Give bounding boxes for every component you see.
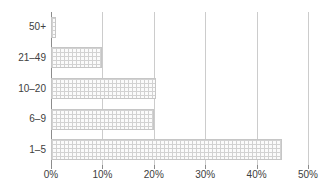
- x-tick-label-10: 10%: [92, 170, 112, 180]
- bar-row: [51, 73, 156, 104]
- y-tick-label-1-5: 1–5: [0, 145, 46, 155]
- y-tick-label-10-20: 10–20: [0, 84, 46, 94]
- bar-row: [51, 104, 154, 135]
- bar-10-20: [51, 78, 156, 99]
- y-axis-labels: 50+ 21–49 10–20 6–9 1–5: [0, 12, 46, 165]
- x-tick-label-40: 40%: [247, 170, 267, 180]
- y-tick-label-50-plus: 50+: [0, 22, 46, 32]
- gridline-50: [308, 12, 309, 165]
- bar-50-plus: [51, 17, 56, 38]
- y-tick-label-21-49: 21–49: [0, 53, 46, 63]
- x-tick-label-0: 0%: [44, 170, 58, 180]
- x-tick-label-30: 30%: [195, 170, 215, 180]
- x-tick-label-20: 20%: [144, 170, 164, 180]
- bar-row: [51, 43, 102, 74]
- y-tick-label-6-9: 6–9: [0, 114, 46, 124]
- x-axis-labels: 0% 10% 20% 30% 40% 50%: [51, 170, 308, 184]
- bar-row: [51, 134, 282, 165]
- bar-chart: 50+ 21–49 10–20 6–9 1–5 0% 10% 20% 30% 4…: [0, 0, 336, 195]
- bar-6-9: [51, 109, 154, 130]
- bar-row: [51, 12, 56, 43]
- x-tick-label-50: 50%: [298, 170, 318, 180]
- plot-area: [51, 12, 308, 165]
- bar-21-49: [51, 47, 102, 68]
- bar-1-5: [51, 139, 282, 160]
